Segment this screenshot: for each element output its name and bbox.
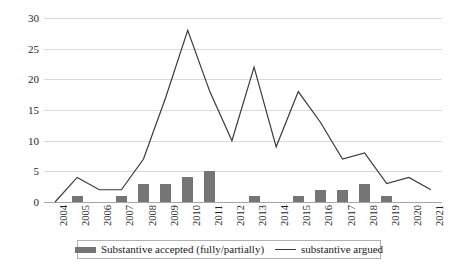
x-axis-tick-label: 2018 xyxy=(369,205,380,226)
y-axis-tick-label: 20 xyxy=(28,74,39,85)
x-axis-tick-label: 2006 xyxy=(103,205,114,226)
y-axis-tick-label: 30 xyxy=(28,13,39,24)
x-axis-tick-label: 2016 xyxy=(324,205,335,226)
x-axis-tick-label: 2019 xyxy=(391,205,402,226)
legend-item-substantive-argued: substantive argued xyxy=(275,244,383,255)
x-axis-tick-label: 2013 xyxy=(258,205,269,226)
y-axis-tick-label: 15 xyxy=(28,105,39,116)
x-axis-tick-labels: 2004200520062007200820092010201120122013… xyxy=(44,203,442,239)
chart-legend: Substantive accepted (fully/partially) s… xyxy=(77,240,381,259)
y-axis-tick-label: 25 xyxy=(28,43,39,54)
legend-label-substantive-accepted: Substantive accepted (fully/partially) xyxy=(101,244,264,255)
legend-label-substantive-argued: substantive argued xyxy=(301,244,383,255)
plot-area: 051015202530 xyxy=(44,18,442,202)
y-axis-tick-label: 0 xyxy=(34,197,40,208)
y-axis-tick-label: 5 xyxy=(34,166,40,177)
x-axis-tick-label: 2009 xyxy=(170,205,181,226)
x-axis-tick-label: 2015 xyxy=(302,205,313,226)
x-axis-tick-label: 2021 xyxy=(435,205,446,226)
x-axis-tick-label: 2014 xyxy=(280,205,291,226)
x-axis-tick-label: 2010 xyxy=(192,205,203,226)
x-axis-tick-label: 2011 xyxy=(214,205,225,226)
y-axis-tick-label: 10 xyxy=(28,135,39,146)
chart-container: 051015202530 200420052006200720082009201… xyxy=(0,0,455,270)
x-axis-tick-label: 2020 xyxy=(413,205,424,226)
x-axis-tick-label: 2004 xyxy=(59,205,70,226)
x-axis-tick-label: 2012 xyxy=(236,205,247,226)
x-axis-tick-label: 2005 xyxy=(81,205,92,226)
x-axis-tick-label: 2007 xyxy=(125,205,136,226)
legend-item-substantive-accepted: Substantive accepted (fully/partially) xyxy=(75,244,264,255)
line-series-substantive-argued xyxy=(44,18,442,202)
line-path xyxy=(55,30,431,202)
legend-line-swatch-icon xyxy=(275,249,296,250)
x-axis-tick-label: 2017 xyxy=(347,205,358,226)
x-axis-tick-label: 2008 xyxy=(148,205,159,226)
legend-bar-swatch-icon xyxy=(75,247,96,253)
